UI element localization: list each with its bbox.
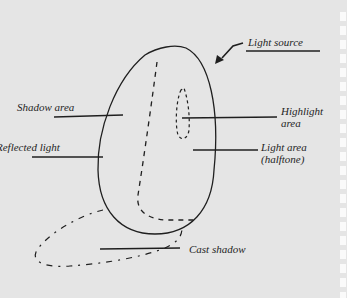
reflected-light-label: Reflected light	[0, 141, 60, 153]
egg-diagram	[0, 0, 364, 306]
light-area-label: Light area (halftone)	[261, 141, 307, 165]
light-area-label-line1: Light area	[261, 141, 307, 153]
cast-shadow-label: Cast shadow	[189, 243, 246, 255]
highlight-dashed-loop	[176, 88, 189, 139]
highlight-label-line2: area	[281, 117, 323, 129]
shadow-area-leader	[54, 115, 123, 117]
egg-outline	[98, 46, 216, 234]
shadow-terminator-dashed	[138, 62, 198, 220]
light-source-label: Light source	[248, 36, 303, 48]
highlight-label-line1: Highlight	[281, 105, 323, 117]
cast-shadow-leader	[100, 248, 180, 249]
light-source-arrow	[222, 43, 243, 58]
shadow-area-label: Shadow area	[17, 101, 74, 113]
light-area-label-line2: (halftone)	[261, 153, 307, 165]
highlight-leader	[182, 117, 277, 118]
highlight-label: Highlight area	[281, 105, 323, 129]
cast-shadow-dashed	[35, 210, 182, 266]
